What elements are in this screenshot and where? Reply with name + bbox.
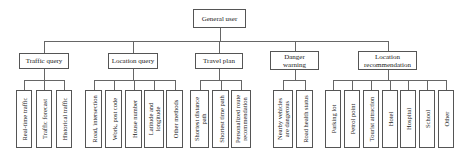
leaf-connector [371, 80, 372, 90]
leaf-connector [44, 80, 45, 90]
category-connector [295, 41, 296, 51]
leaf-node: House number [125, 90, 142, 148]
leaf-label: Nearby vehiclesare dangerous [276, 98, 290, 140]
leaf-connector [408, 80, 409, 90]
leaf-connector [241, 80, 242, 90]
leaf-label: Real-time traffic [21, 97, 28, 140]
leaf-connector [94, 80, 95, 90]
leaf-connector [352, 80, 353, 90]
leaf-connector [305, 80, 306, 90]
category-down-connector [219, 69, 220, 80]
category-node-travel-plan: Travel plan [195, 53, 243, 69]
leaf-label: Personalized routerecommendation [234, 95, 248, 143]
leaf-node: Real-time traffic [16, 90, 32, 148]
leaf-node: Historical traffic [56, 90, 72, 148]
leaf-connector [64, 80, 65, 90]
leaf-connector [24, 80, 25, 90]
level1-bus-line [44, 41, 389, 42]
leaf-node: Hospital [400, 90, 416, 148]
category-label: Traffic query [26, 57, 63, 65]
leaf-label: Latitude andlongitude [147, 103, 161, 136]
leaf-label: School [424, 110, 431, 128]
leaf-node: Road health status [296, 90, 313, 148]
category-down-connector [295, 70, 296, 80]
leaf-connector [114, 80, 115, 90]
leaf-node: Tourist attraction [363, 90, 379, 148]
leaf-label: Petrol point [349, 104, 356, 135]
category-down-connector [133, 69, 134, 80]
leaf-node: Hotel [382, 90, 398, 148]
category-label: Travel plan [203, 57, 235, 65]
leaf-node: Latitude andlongitude [144, 90, 164, 148]
category-node-location-query: Location query [108, 53, 158, 69]
leaf-connector [221, 80, 222, 90]
category-connector [44, 41, 45, 53]
category-label: Location query [112, 57, 155, 65]
leaf-label: Parking lot [330, 105, 337, 134]
leaf-label: Road health status [301, 95, 308, 143]
category-label: Locationrecommendation [364, 53, 411, 69]
category-connector [133, 41, 134, 53]
leaf-connector [283, 80, 284, 90]
leaf-node: Nearby vehiclesare dangerous [273, 90, 293, 148]
leaf-label: Work, post code [110, 98, 117, 140]
leaf-node: Shortest time path [212, 90, 229, 148]
leaf-label: Other methods [171, 100, 178, 138]
category-down-connector [388, 70, 389, 80]
leaf-node: Petrol point [344, 90, 360, 148]
leaf-node: Traffic forecast [36, 90, 52, 148]
leaf-node: Other methods [166, 90, 183, 148]
leaf-node: Work, post code [105, 90, 122, 148]
category-down-connector [44, 69, 45, 80]
leaf-label: House number [130, 100, 137, 138]
root-connector [220, 28, 221, 41]
leaf-node: Shortest distancepath [190, 90, 209, 148]
leaf-node: Parking lot [325, 90, 341, 148]
leaf-node: Other [438, 90, 454, 148]
hierarchy-diagram: General user Traffic queryReal-time traf… [0, 0, 469, 161]
leaf-bus-line [94, 80, 176, 81]
category-node-location-recommendation: Locationrecommendation [358, 51, 417, 70]
leaf-label: Road, intersection [90, 95, 97, 142]
leaf-node: School [419, 90, 435, 148]
leaf-label: Shortest distancepath [193, 97, 207, 141]
leaf-label: Hospital [405, 108, 412, 130]
category-connector [219, 41, 220, 53]
leaf-connector [134, 80, 135, 90]
leaf-connector [427, 80, 428, 90]
root-label: General user [202, 15, 238, 23]
leaf-node: Personalized routerecommendation [231, 90, 251, 148]
leaf-label: Other [443, 112, 450, 127]
leaf-connector [390, 80, 391, 90]
leaf-connector [333, 80, 334, 90]
root-node-general-user: General user [193, 9, 246, 28]
category-node-danger-warning: Dangerwarning [270, 51, 319, 70]
category-node-traffic-query: Traffic query [19, 53, 69, 69]
leaf-label: Tourist attraction [368, 97, 375, 142]
leaf-bus-line [283, 80, 306, 81]
leaf-label: Hotel [387, 112, 394, 126]
leaf-label: Traffic forecast [41, 99, 48, 139]
category-label: Dangerwarning [283, 53, 306, 69]
leaf-label: Historical traffic [61, 97, 68, 140]
category-connector [388, 41, 389, 51]
leaf-label: Shortest time path [217, 95, 224, 142]
leaf-connector [154, 80, 155, 90]
leaf-connector [175, 80, 176, 90]
leaf-node: Road, intersection [85, 90, 102, 148]
leaf-connector [446, 80, 447, 90]
leaf-connector [200, 80, 201, 90]
